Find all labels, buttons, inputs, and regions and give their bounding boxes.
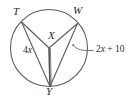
radius-xy-line <box>49 48 50 87</box>
arc-leader-line <box>74 46 94 51</box>
arc-leader-dot <box>72 44 74 46</box>
arc-measure-label-expression: 2x + 10 <box>96 45 125 55</box>
geometry-figure: T W Y X 4x 2x + 10 <box>0 0 136 99</box>
center-label-x: X <box>48 30 55 41</box>
point-label-t: T <box>13 6 19 17</box>
point-label-w: W <box>73 5 82 16</box>
point-label-y: Y <box>46 86 52 97</box>
angle-measure-label-4x: 4x <box>23 46 32 56</box>
